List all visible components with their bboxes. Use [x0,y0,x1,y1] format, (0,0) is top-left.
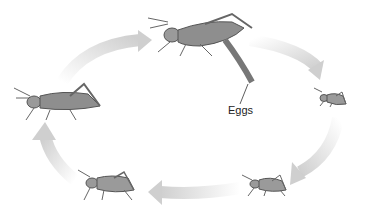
cycle-arrow-upper-left [62,30,152,82]
cycle-arrow-right [290,118,338,185]
grasshopper-nymph-medium-icon [242,175,286,196]
grasshopper-nymph-small-icon [314,88,346,107]
grasshopper-adult-icon [14,84,100,120]
eggs-pointer-line [240,84,248,104]
cycle-arrow-lower-left [32,122,75,180]
grasshopper-nymph-large-icon [78,170,134,200]
life-cycle-diagram: Eggs [0,0,367,220]
cycle-arrow-upper-right [250,40,324,80]
eggs-label: Eggs [228,104,253,116]
cycle-arrow-bottom [148,180,240,205]
grasshopper-adult-laying-eggs-icon [148,14,252,82]
diagram-canvas [0,0,367,220]
